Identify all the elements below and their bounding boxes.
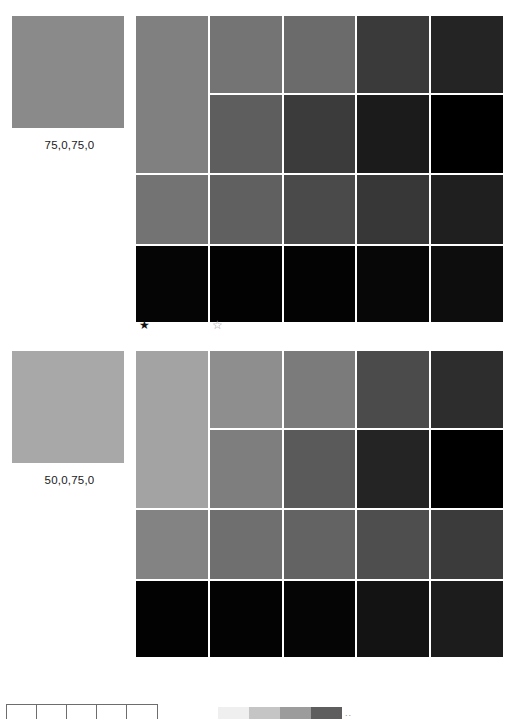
color-chip-block: 50,0,75,0 (12, 351, 127, 486)
tone-grid (136, 16, 503, 316)
tone-cell (357, 581, 429, 657)
bottom-clipped-section: .. (0, 700, 510, 719)
tone-cell (136, 175, 208, 244)
mini-table-cell (127, 705, 157, 719)
tone-cell (210, 510, 282, 579)
tone-cell (431, 16, 503, 93)
tone-cell (357, 430, 429, 508)
tone-cell (284, 351, 356, 428)
tone-cell (357, 510, 429, 579)
star-filled-icon: ★ (138, 319, 150, 331)
tone-grid (136, 351, 503, 651)
trailing-dots: .. (345, 708, 352, 718)
tone-cell (431, 430, 503, 508)
tone-cell (357, 175, 429, 244)
mini-table-cell (7, 705, 37, 719)
tone-cell (136, 510, 208, 579)
gradient-swatch (280, 707, 311, 719)
tone-cell (210, 95, 282, 173)
mini-table-cell (97, 705, 127, 719)
tone-cell (284, 95, 356, 173)
color-chip-caption: 50,0,75,0 (12, 474, 127, 486)
color-chip-caption: 75,0,75,0 (12, 139, 127, 151)
tone-cell (210, 430, 282, 508)
tone-cell (284, 246, 356, 322)
tone-cell (431, 246, 503, 322)
tone-cell (357, 351, 429, 428)
tone-cell (284, 16, 356, 93)
marker-row: ★☆ (136, 319, 503, 335)
tone-cell (357, 246, 429, 322)
color-chip (12, 351, 124, 463)
tone-cell (431, 175, 503, 244)
tone-cell (284, 430, 356, 508)
tone-cell (136, 16, 208, 173)
gradient-swatch (218, 707, 249, 719)
tone-cell (136, 246, 208, 322)
color-chip-block: 75,0,75,0 (12, 16, 127, 151)
tone-cell (210, 16, 282, 93)
tone-cell (431, 581, 503, 657)
tone-cell (357, 95, 429, 173)
tone-cell (431, 510, 503, 579)
tone-cell (284, 510, 356, 579)
color-chip (12, 16, 124, 128)
tone-cell (210, 175, 282, 244)
tone-cell (431, 95, 503, 173)
tone-cell (284, 581, 356, 657)
tone-cell (136, 581, 208, 657)
gradient-swatch (249, 707, 280, 719)
tone-cell (210, 581, 282, 657)
tone-cell (210, 351, 282, 428)
gradient-swatch-strip (218, 707, 342, 719)
tone-cell (284, 175, 356, 244)
tone-cell (431, 351, 503, 428)
star-outline-icon: ☆ (211, 319, 223, 331)
mini-table-cell (67, 705, 97, 719)
tone-cell (210, 246, 282, 322)
mini-table-cell (37, 705, 67, 719)
mini-table (6, 704, 158, 719)
gradient-swatch (311, 707, 342, 719)
tone-cell (136, 351, 208, 508)
tone-cell (357, 16, 429, 93)
